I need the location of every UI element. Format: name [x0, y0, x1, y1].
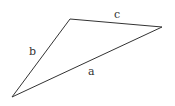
triangle-diagram: c b a	[0, 0, 175, 106]
side-b-line	[12, 19, 70, 97]
side-a-label: a	[88, 65, 95, 78]
side-a-line	[12, 27, 162, 97]
side-c-label: c	[114, 8, 120, 21]
side-b-label: b	[29, 45, 36, 58]
